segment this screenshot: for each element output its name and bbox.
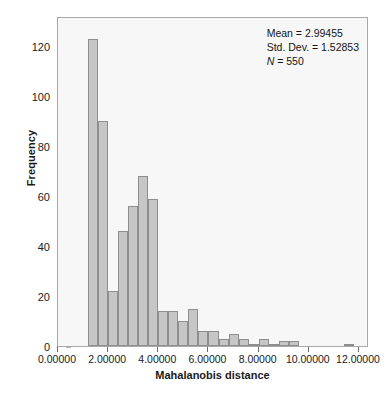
- histogram-bar: [198, 331, 208, 346]
- x-axis-tick-mark: [207, 347, 208, 352]
- x-axis-tick-label: 0.00000: [38, 353, 76, 365]
- y-axis-tick-label: 40: [14, 241, 50, 253]
- y-axis-tick-label: 100: [14, 91, 50, 103]
- y-axis-tick-label: 80: [14, 141, 50, 153]
- histogram-bar: [344, 344, 354, 347]
- x-axis-tick-label: 10.00000: [286, 353, 330, 365]
- histogram-bar: [138, 176, 148, 346]
- x-axis-tick-mark: [258, 347, 259, 352]
- x-axis-tick-mark: [358, 347, 359, 352]
- histogram-bar: [168, 311, 178, 346]
- histogram-bar: [158, 311, 168, 346]
- x-axis-title: Mahalanobis distance: [57, 369, 368, 381]
- histogram-bar: [269, 344, 279, 347]
- x-axis-tick-mark: [308, 347, 309, 352]
- histogram-bar: [118, 231, 128, 346]
- y-axis-tick-label: 60: [14, 191, 50, 203]
- y-axis-tick-label: 20: [14, 291, 50, 303]
- histogram-bar: [239, 339, 249, 347]
- histogram-bar: [128, 206, 138, 346]
- stat-std-dev: Std. Dev. = 1.52853: [267, 40, 359, 54]
- x-axis-tick-label: 4.00000: [138, 353, 176, 365]
- histogram-bar: [219, 339, 229, 347]
- stat-mean: Mean = 2.99455: [267, 26, 359, 40]
- stat-n-value: = 550: [274, 55, 304, 67]
- histogram-bar: [208, 331, 218, 346]
- x-axis-tick-label: 8.00000: [239, 353, 277, 365]
- histogram-figure: Frequency 020406080100120 Mean = 2.99455…: [0, 0, 390, 399]
- x-axis-tick-label: 12.00000: [336, 353, 380, 365]
- stat-n: N = 550: [267, 54, 359, 68]
- x-axis-tick-label: 2.00000: [88, 353, 126, 365]
- x-axis-tick-labels: 0.000002.000004.000006.000008.0000010.00…: [0, 353, 390, 369]
- y-axis-tick-label: 0: [14, 341, 50, 353]
- histogram-bar: [88, 39, 98, 347]
- histogram-bar: [148, 199, 158, 347]
- histogram-bar: [259, 339, 269, 347]
- y-axis-tick-label: 120: [14, 41, 50, 53]
- x-axis-tick-mark: [107, 347, 108, 352]
- histogram-bar: [229, 334, 239, 347]
- plot-frame: Mean = 2.99455 Std. Dev. = 1.52853 N = 5…: [57, 17, 368, 347]
- figure-caption: [0, 389, 390, 399]
- x-axis-tick-mark: [57, 347, 58, 352]
- x-axis-tick-label: 6.00000: [188, 353, 226, 365]
- histogram-bar: [188, 309, 198, 347]
- x-axis-tick-mark: [157, 347, 158, 352]
- histogram-bar: [279, 341, 289, 346]
- histogram-bar: [289, 341, 299, 346]
- histogram-bar: [108, 291, 118, 346]
- histogram-bar: [249, 344, 259, 347]
- histogram-bar: [178, 321, 188, 346]
- histogram-bar: [98, 121, 108, 346]
- statistics-annotation: Mean = 2.99455 Std. Dev. = 1.52853 N = 5…: [267, 26, 359, 68]
- y-axis-tick-labels: 020406080100120: [14, 17, 50, 347]
